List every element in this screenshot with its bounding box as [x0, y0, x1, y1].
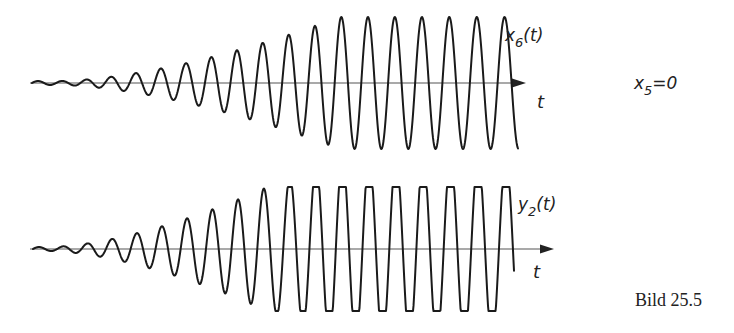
signal-label-y2: y2(t) [517, 194, 556, 219]
condition-label: x5=0 [633, 73, 677, 98]
axis-arrow-icon [512, 79, 526, 88]
axis-label-t: t [537, 91, 545, 112]
axis-arrow-icon [540, 245, 554, 254]
plot-x6: x6(t) t [30, 17, 545, 149]
plot-y2: y2(t) t [30, 187, 556, 311]
axis-label-t: t [533, 261, 541, 282]
figure: x6(t) t x5=0 y2(t) t Bild 25.5 [0, 0, 734, 333]
figure-caption: Bild 25.5 [635, 290, 702, 310]
